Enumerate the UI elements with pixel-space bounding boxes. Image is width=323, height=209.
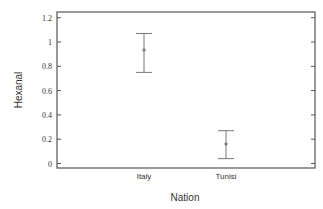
y-tick-label: 0.6 — [42, 87, 52, 96]
x-category-label: Italy — [137, 172, 152, 181]
error-bars: ** — [136, 33, 234, 158]
y-tick-label: 0.2 — [42, 135, 52, 144]
y-tick-label: 1.2 — [42, 14, 52, 23]
mean-marker-icon: * — [142, 47, 147, 57]
error-bar-chart: 00.20.40.60.811.2 ** ItalyTunisi Hexanal… — [0, 0, 323, 209]
y-tick-label: 0 — [48, 160, 52, 169]
mean-marker-icon: * — [224, 141, 229, 151]
y-tick-label: 1 — [48, 38, 52, 47]
error-bar-italy: * — [136, 33, 152, 72]
y-axis-title: Hexanal — [13, 72, 24, 109]
x-axis-categories: ItalyTunisi — [137, 172, 237, 181]
y-axis-ticks: 00.20.40.60.811.2 — [42, 14, 315, 169]
x-category-label: Tunisi — [215, 172, 236, 181]
y-tick-label: 0.4 — [42, 111, 52, 120]
plot-frame — [57, 12, 315, 168]
y-tick-label: 0.8 — [42, 62, 52, 71]
plot-border — [57, 12, 315, 168]
error-bar-tunisi: * — [218, 131, 234, 159]
x-axis-title: Nation — [171, 192, 200, 203]
